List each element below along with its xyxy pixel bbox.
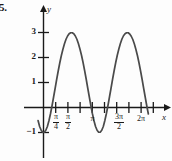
x-axis-label: x [162,112,166,122]
fraction-pi-4: π 4 [53,113,59,132]
x-axis [24,104,171,111]
x-tick-label-pi-over-2: π 2 [61,113,75,132]
y-axis-label: y [47,4,51,14]
y-tick-label-neg1: −1 [20,126,36,136]
x-tick-label-pi: π [86,115,99,123]
fraction-3pi-2: 3π 2 [114,113,124,132]
y-tick-label-1: 1 [22,76,36,86]
fraction-pi-2: π 2 [65,113,71,132]
x-tick-label-2pi: 2π [133,115,149,123]
y-tick-label-2: 2 [22,51,36,61]
y-tick-label-3: 3 [22,26,36,36]
figure-container: 5. [0,0,172,161]
x-tick-label-3pi-over-2: 3π 2 [110,113,128,132]
y-axis [40,5,47,158]
